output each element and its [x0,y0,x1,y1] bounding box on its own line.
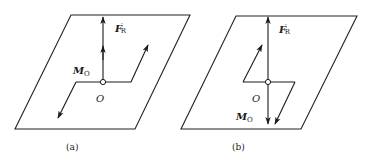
origin-point-b [265,79,270,84]
caption-b: (b) [232,142,245,152]
moment-label-b: MO [235,111,253,124]
moment-arrow-up-a [131,45,148,82]
moment-arrow-up-b [243,45,262,82]
moment-label-a: MO [72,65,90,78]
force-label-a: F′R [114,22,127,35]
force-label-b: F′R [278,23,291,36]
moment-arrow-down-b [275,82,295,124]
origin-point-a [100,79,105,84]
caption-a: (a) [66,142,78,152]
panel-b: F′R O MO (b) [181,16,357,152]
moment-arrow-down-a [58,82,76,118]
origin-label-a: O [96,93,104,104]
panel-a: F′R MO O (a) [15,15,190,152]
reduction-diagram: F′R MO O (a) F′R O MO (b) [0,0,369,164]
origin-label-b: O [252,93,260,104]
plane-b [181,16,357,129]
